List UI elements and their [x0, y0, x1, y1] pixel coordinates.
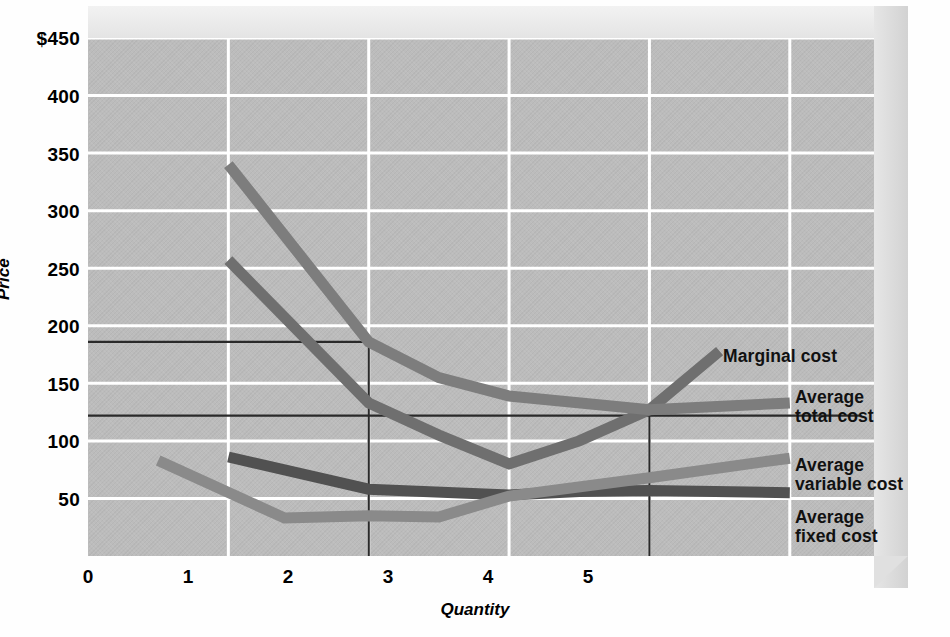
marginal-cost-label: Marginal cost	[723, 347, 837, 366]
average-fixed-cost-label: Average fixed cost	[795, 508, 878, 546]
y-tick-300: 300	[47, 201, 80, 223]
x-axis-title: Quantity	[0, 600, 950, 620]
box-right-face	[874, 6, 908, 588]
x-tick-1: 1	[168, 566, 208, 588]
y-tick-450: $450	[37, 28, 80, 50]
y-tick-100: 100	[47, 431, 80, 453]
y-tick-200: 200	[47, 316, 80, 338]
y-tick-250: 250	[47, 259, 80, 281]
x-tick-0: 0	[68, 566, 108, 588]
x-tick-2: 2	[268, 566, 308, 588]
plot-area	[88, 38, 874, 556]
average-total-cost-label: Average total cost	[795, 388, 874, 426]
y-tick-350: 350	[47, 144, 80, 166]
y-axis-ticks: $450 400 350 300 250 200 150 100 50	[0, 0, 80, 637]
box-bottom-right-bevel	[874, 556, 908, 588]
x-tick-4: 4	[468, 566, 508, 588]
y-tick-150: 150	[47, 374, 80, 396]
x-tick-5: 5	[568, 566, 608, 588]
curve-marginal-cost	[228, 260, 719, 464]
chart-canvas: $450 400 350 300 250 200 150 100 50 Pric…	[0, 0, 950, 637]
box-top-face	[88, 6, 874, 38]
y-tick-400: 400	[47, 86, 80, 108]
x-tick-3: 3	[368, 566, 408, 588]
y-tick-50: 50	[58, 489, 80, 511]
plot-svg	[88, 38, 874, 556]
average-variable-cost-label: Average variable cost	[795, 456, 903, 494]
y-axis-title: Price	[0, 258, 14, 300]
